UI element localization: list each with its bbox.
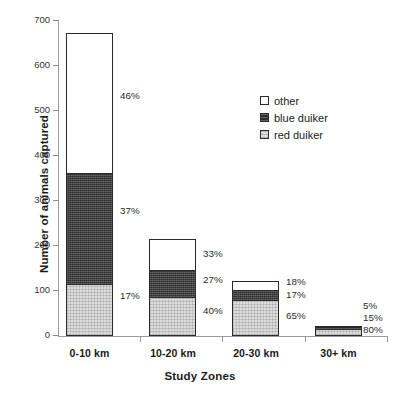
legend-swatch-red-duiker-icon bbox=[260, 130, 269, 139]
legend-item-red-duiker[interactable]: red duiker bbox=[260, 126, 328, 143]
y-tick-mark-700 bbox=[53, 20, 58, 21]
chart-canvas: Number of animals captured 700 600 500 4… bbox=[0, 0, 400, 398]
pct-label-blue-duiker-0-10: 37% bbox=[120, 205, 140, 216]
pct-label-other-0-10: 46% bbox=[120, 90, 140, 101]
y-axis-line bbox=[58, 20, 59, 336]
legend-item-blue-duiker[interactable]: blue duiker bbox=[260, 109, 328, 126]
x-category-label-10-20-km: 10-20 km bbox=[137, 347, 209, 359]
x-tick-mark-4 bbox=[387, 337, 388, 342]
bar-segment-blue-duiker[interactable] bbox=[149, 270, 196, 298]
y-tick-mark-100 bbox=[53, 290, 58, 291]
legend-label-other: other bbox=[274, 95, 299, 107]
y-tick-mark-500 bbox=[53, 110, 58, 111]
legend-swatch-other-icon bbox=[260, 96, 269, 105]
pct-label-red-duiker-20-30: 65% bbox=[286, 310, 306, 321]
x-axis-title: Study Zones bbox=[0, 370, 400, 382]
y-tick-label-200: 200 bbox=[14, 239, 50, 250]
y-tick-label-700: 700 bbox=[14, 14, 50, 25]
pct-label-other-10-20: 33% bbox=[203, 248, 223, 259]
x-category-label-0-10-km: 0-10 km bbox=[57, 347, 122, 359]
x-tick-mark-1 bbox=[140, 337, 141, 342]
bar-group-30-plus-km[interactable] bbox=[315, 327, 362, 336]
bar-segment-red-duiker[interactable] bbox=[149, 297, 196, 336]
pct-label-other-30-plus: 5% bbox=[363, 300, 377, 311]
y-tick-label-600: 600 bbox=[14, 59, 50, 70]
legend-label-red-duiker: red duiker bbox=[274, 129, 323, 141]
pct-label-blue-duiker-20-30: 17% bbox=[286, 289, 306, 300]
y-tick-label-300: 300 bbox=[14, 194, 50, 205]
pct-label-other-20-30: 18% bbox=[286, 276, 306, 287]
y-tick-mark-400 bbox=[53, 155, 58, 156]
y-tick-mark-300 bbox=[53, 200, 58, 201]
y-tick-label-500: 500 bbox=[14, 104, 50, 115]
bar-segment-other[interactable] bbox=[66, 33, 113, 174]
chart-legend: other blue duiker red duiker bbox=[260, 92, 328, 143]
y-tick-label-0: 0 bbox=[14, 329, 50, 340]
bar-segment-red-duiker[interactable] bbox=[66, 284, 113, 336]
bar-segment-blue-duiker[interactable] bbox=[66, 173, 113, 285]
y-tick-mark-200 bbox=[53, 245, 58, 246]
bar-segment-red-duiker[interactable] bbox=[315, 329, 362, 336]
x-tick-mark-2 bbox=[222, 337, 223, 342]
legend-swatch-blue-duiker-icon bbox=[260, 113, 269, 122]
pct-label-red-duiker-10-20: 40% bbox=[203, 305, 223, 316]
pct-label-blue-duiker-10-20: 27% bbox=[203, 274, 223, 285]
y-tick-label-100: 100 bbox=[14, 284, 50, 295]
bar-segment-red-duiker[interactable] bbox=[232, 300, 279, 336]
pct-label-blue-duiker-30-plus: 15% bbox=[363, 312, 383, 323]
y-tick-mark-600 bbox=[53, 65, 58, 66]
bar-group-10-20-km[interactable] bbox=[149, 239, 196, 336]
legend-item-other[interactable]: other bbox=[260, 92, 328, 109]
pct-label-red-duiker-30-plus: 80% bbox=[363, 324, 383, 335]
x-category-label-20-30-km: 20-30 km bbox=[220, 347, 292, 359]
legend-label-blue-duiker: blue duiker bbox=[274, 112, 328, 124]
x-axis-line bbox=[58, 336, 388, 337]
y-tick-label-400: 400 bbox=[14, 149, 50, 160]
bar-group-20-30-km[interactable] bbox=[232, 281, 279, 336]
pct-label-red-duiker-0-10: 17% bbox=[120, 290, 140, 301]
bar-group-0-10-km[interactable] bbox=[66, 33, 113, 336]
x-tick-mark-3 bbox=[305, 337, 306, 342]
x-category-label-30-plus-km: 30+ km bbox=[306, 347, 371, 359]
bar-segment-other[interactable] bbox=[149, 239, 196, 271]
